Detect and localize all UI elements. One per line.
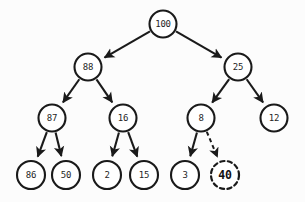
tree-node-100[interactable]: 100: [150, 11, 177, 38]
tree-edge-8-to-40: [207, 132, 218, 157]
tree-edge-16-to-15: [128, 132, 137, 157]
tree-node-label-86: 86: [26, 170, 36, 180]
tree-node-label-25: 25: [233, 62, 243, 72]
tree-node-label-3: 3: [182, 170, 187, 180]
tree-node-12[interactable]: 12: [261, 105, 288, 132]
tree-node-16[interactable]: 16: [110, 105, 137, 132]
tree-edge-88-to-87: [63, 79, 79, 102]
tree-node-25[interactable]: 25: [225, 54, 252, 81]
tree-node-label-15: 15: [139, 170, 149, 180]
tree-edge-88-to-16: [96, 79, 112, 102]
tree-edge-25-to-8: [212, 79, 229, 102]
tree-node-40[interactable]: 40: [211, 161, 239, 189]
tree-edge-100-to-88: [104, 31, 150, 57]
tree-edge-16-to-2: [112, 132, 119, 156]
tree-edge-87-to-86: [38, 132, 47, 157]
tree-node-label-88: 88: [83, 62, 93, 72]
tree-edge-100-to-25: [176, 31, 222, 57]
tree-node-8[interactable]: 8: [188, 105, 215, 132]
tree-node-label-16: 16: [118, 113, 128, 123]
binary-tree-diagram: 100882587168128650215340: [0, 0, 305, 202]
tree-node-label-50: 50: [61, 170, 71, 180]
tree-node-15[interactable]: 15: [130, 161, 158, 189]
tree-node-2[interactable]: 2: [93, 161, 121, 189]
tree-node-label-40: 40: [218, 168, 232, 182]
tree-node-label-100: 100: [155, 19, 171, 29]
tree-node-86[interactable]: 86: [17, 161, 45, 189]
tree-edge-8-to-3: [190, 132, 197, 156]
tree-edge-87-to-50: [56, 133, 62, 156]
tree-node-3[interactable]: 3: [171, 161, 199, 189]
tree-node-label-2: 2: [104, 170, 109, 180]
tree-edges-group: [38, 31, 263, 157]
tree-node-50[interactable]: 50: [52, 161, 80, 189]
tree-node-label-87: 87: [47, 113, 57, 123]
tree-node-87[interactable]: 87: [39, 105, 66, 132]
tree-edge-25-to-12: [247, 79, 263, 102]
tree-nodes-group: 100882587168128650215340: [17, 11, 288, 190]
tree-node-label-12: 12: [269, 113, 279, 123]
tree-node-label-8: 8: [198, 113, 203, 123]
tree-node-88[interactable]: 88: [75, 54, 102, 81]
